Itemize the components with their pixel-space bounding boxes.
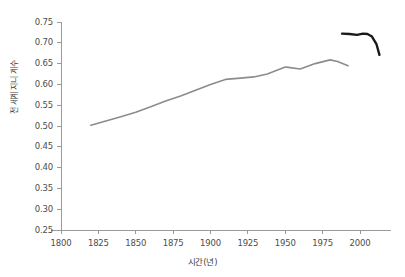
y-axis-title: 전 세계 지니 계수 bbox=[8, 53, 19, 123]
y-tick-label: 0.75 bbox=[25, 17, 53, 27]
y-tick-label: 0.30 bbox=[25, 204, 53, 214]
series-line-recent-gini bbox=[342, 34, 379, 55]
x-tick-label: 1900 bbox=[191, 238, 231, 248]
series-line-historical-gini bbox=[91, 60, 348, 125]
y-tick-label: 0.70 bbox=[25, 37, 53, 47]
gini-line-chart: 0.250.300.350.400.450.500.550.600.650.70… bbox=[0, 0, 405, 277]
y-tick-label: 0.60 bbox=[25, 79, 53, 89]
x-tick-label: 1875 bbox=[153, 238, 193, 248]
y-tick-label: 0.35 bbox=[25, 183, 53, 193]
x-tick-label: 1800 bbox=[41, 238, 81, 248]
y-tick-label: 0.65 bbox=[25, 58, 53, 68]
y-tick-label: 0.50 bbox=[25, 121, 53, 131]
x-tick-label: 1825 bbox=[78, 238, 118, 248]
x-tick-label: 1850 bbox=[116, 238, 156, 248]
y-tick-label: 0.25 bbox=[25, 225, 53, 235]
x-tick-label: 1925 bbox=[228, 238, 268, 248]
x-tick-label: 1975 bbox=[303, 238, 343, 248]
x-tick-label: 2000 bbox=[340, 238, 380, 248]
axis-ticks bbox=[57, 22, 360, 234]
chart-plot-area bbox=[0, 0, 405, 277]
y-tick-label: 0.40 bbox=[25, 162, 53, 172]
data-series-group bbox=[91, 34, 380, 126]
x-axis-title: 시간(년) bbox=[0, 255, 405, 267]
axis-spines bbox=[51, 22, 392, 230]
y-tick-label: 0.45 bbox=[25, 141, 53, 151]
y-tick-label: 0.55 bbox=[25, 100, 53, 110]
x-tick-label: 1950 bbox=[265, 238, 305, 248]
